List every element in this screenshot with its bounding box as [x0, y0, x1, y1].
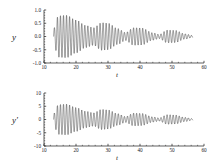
x-tick-label: 60 [201, 147, 207, 153]
waveform-curve [54, 15, 193, 57]
y-tick-label: 5 [38, 103, 41, 109]
x-tick-label: 10 [41, 64, 47, 70]
y-tick-label: -0.5 [33, 47, 42, 53]
y-tick-label: 0.5 [35, 20, 42, 26]
oscillation-figure: y t 1020304050601.00.50.0-0.5-1.0 y' t 1… [0, 0, 211, 166]
y-tick-label: 10 [36, 90, 42, 96]
y-tick-label: 1.0 [35, 7, 42, 13]
x-tick-label: 30 [105, 64, 111, 70]
waveform-curve [54, 104, 193, 135]
x-tick-label: 10 [41, 147, 47, 153]
x-tick-label: 50 [169, 64, 175, 70]
chart-panel-velocity: y' t 1020304050601050-5-10 [0, 83, 211, 166]
plot-area-displacement: 1020304050601.00.50.0-0.5-1.0 [0, 0, 211, 83]
x-tick-label: 50 [169, 147, 175, 153]
plot-area-velocity: 1020304050601050-5-10 [0, 83, 211, 166]
chart-panel-displacement: y t 1020304050601.00.50.0-0.5-1.0 [0, 0, 211, 83]
x-tick-label: 40 [137, 64, 143, 70]
x-tick-label: 30 [105, 147, 111, 153]
x-tick-label: 20 [73, 147, 79, 153]
y-tick-label: 0.0 [35, 33, 42, 39]
y-tick-label: -5 [37, 130, 42, 136]
x-tick-label: 20 [73, 64, 79, 70]
y-tick-label: -1.0 [33, 60, 42, 66]
x-tick-label: 40 [137, 147, 143, 153]
y-tick-label: 0 [38, 116, 41, 122]
y-tick-label: -10 [34, 143, 41, 149]
x-tick-label: 60 [201, 64, 207, 70]
